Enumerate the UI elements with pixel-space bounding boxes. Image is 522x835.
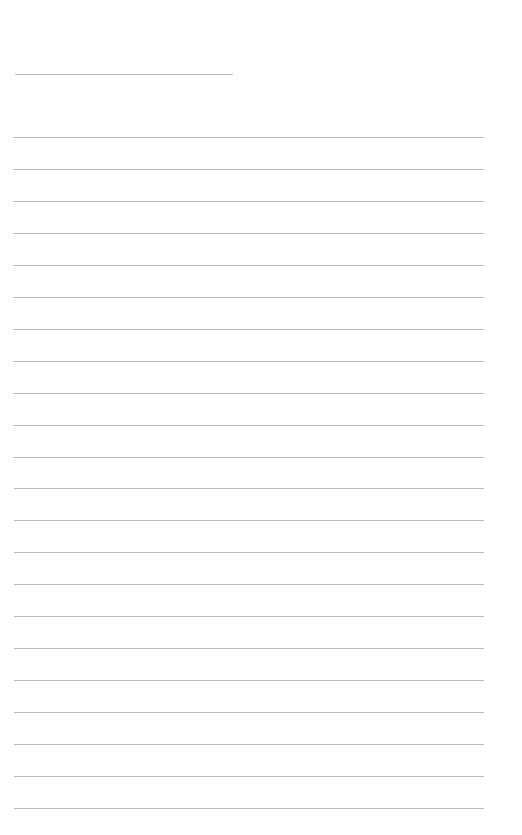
writing-line xyxy=(14,520,484,521)
writing-line xyxy=(14,297,484,298)
writing-line xyxy=(14,552,484,553)
writing-line xyxy=(14,457,484,458)
writing-line xyxy=(14,201,484,202)
writing-line xyxy=(14,648,484,649)
writing-line xyxy=(14,744,484,745)
writing-line xyxy=(14,361,484,362)
writing-line xyxy=(14,776,484,777)
writing-line xyxy=(14,265,484,266)
writing-line xyxy=(14,584,484,585)
title-line xyxy=(15,74,233,75)
writing-line xyxy=(14,393,484,394)
writing-line xyxy=(14,169,484,170)
writing-line xyxy=(14,808,484,809)
writing-line xyxy=(14,329,484,330)
lined-paper-page xyxy=(0,0,522,835)
writing-line xyxy=(14,425,484,426)
writing-line xyxy=(14,712,484,713)
writing-line xyxy=(14,233,484,234)
writing-line xyxy=(14,680,484,681)
writing-line xyxy=(14,137,484,138)
writing-line xyxy=(14,616,484,617)
writing-line xyxy=(14,488,484,489)
